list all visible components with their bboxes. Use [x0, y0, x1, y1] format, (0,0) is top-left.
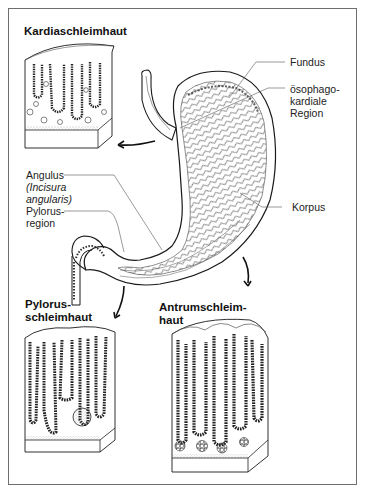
- arrow-to-antrum: [243, 257, 248, 283]
- arrow-to-cardia: [120, 141, 155, 145]
- antrum-mucosa-block: [172, 319, 268, 472]
- label-incisura-angularis: (Incisura angularis): [26, 181, 72, 205]
- label-fundus: Fundus: [290, 56, 325, 68]
- cardia-mucosa-block: [25, 44, 114, 148]
- label-esophageal-cardiac-region: ösophago- kardiale Region: [290, 83, 340, 119]
- label-angulus: Angulus: [26, 169, 64, 181]
- label-korpus: Korpus: [292, 201, 325, 213]
- label-pylorus-region: Pylorus- region: [26, 205, 65, 229]
- antrum-mucosa-title: Antrumschleim- haut: [159, 301, 247, 327]
- pylorus-mucosa-title: Pylorus- schleimhaut: [25, 298, 92, 324]
- pylorus-mucosa-block: [25, 327, 115, 452]
- stomach-illustration: [0, 0, 368, 498]
- arrow-to-pylorus: [116, 286, 124, 316]
- leader-angulus: [64, 175, 162, 250]
- cardia-mucosa-title: Kardiaschleimhaut: [24, 25, 127, 38]
